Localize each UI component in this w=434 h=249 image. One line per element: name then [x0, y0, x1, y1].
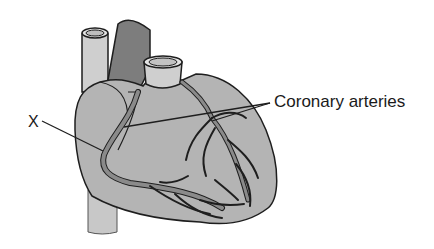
heart-diagram: [0, 0, 434, 249]
label-x: X: [28, 114, 39, 130]
aorta: [144, 56, 182, 88]
label-coronary-arteries: Coronary arteries: [274, 93, 405, 110]
